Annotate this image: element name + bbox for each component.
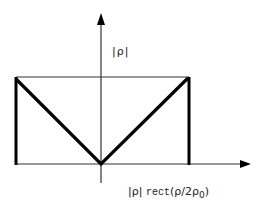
x-label-close: ) bbox=[205, 185, 209, 198]
x-axis-arrow-icon bbox=[240, 160, 251, 168]
ramp-curve bbox=[16, 78, 188, 164]
x-label-func: rect bbox=[146, 187, 170, 198]
y-axis-label: |ρ| bbox=[112, 45, 129, 58]
diagram-graphic bbox=[0, 0, 264, 215]
x-label-arg: (ρ/2ρ bbox=[170, 185, 199, 198]
y-axis-arrow-icon bbox=[97, 13, 105, 25]
x-axis-label: |ρ| rect(ρ/2ρ0) bbox=[128, 185, 209, 200]
x-label-prefix: |ρ| bbox=[128, 185, 142, 198]
ramp-filter-diagram: |ρ| |ρ| rect(ρ/2ρ0) bbox=[0, 0, 264, 215]
